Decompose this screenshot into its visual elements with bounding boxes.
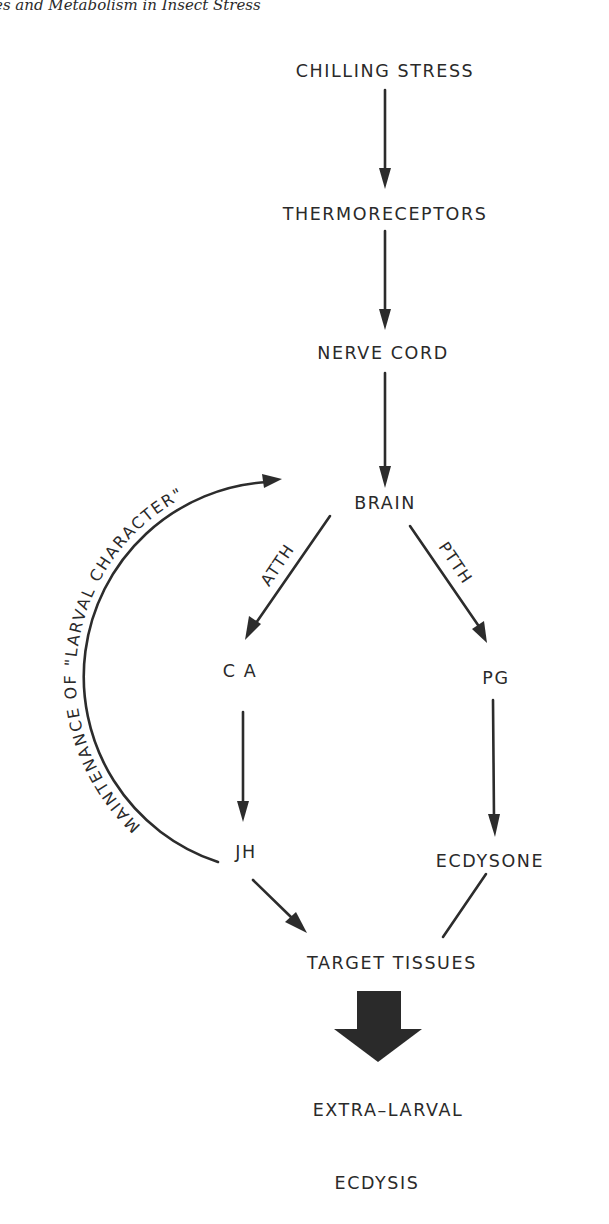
node-brain: BRAIN	[354, 493, 416, 513]
node-jh: JH	[234, 842, 257, 862]
line-ecdysone-to-target-tissues	[443, 874, 486, 937]
node-ecdysis: ECDYSIS	[334, 1173, 419, 1193]
label-maintenance-larval-character: MAINTENANCE OF "LARVAL CHARACTER"	[61, 484, 187, 837]
label-maintenance-text: MAINTENANCE OF "LARVAL CHARACTER"	[61, 484, 187, 837]
arrow-thermoreceptors-to-nerve-cord	[379, 231, 391, 330]
label-atth: ATTH	[257, 540, 299, 589]
node-pg: PG	[482, 668, 509, 688]
node-extra-larval: EXTRA–LARVAL	[313, 1100, 464, 1120]
arrow-chilling-to-thermoreceptors	[379, 90, 391, 189]
arrow-pg-to-ecdysone	[488, 700, 500, 837]
node-target-tissues: TARGET TISSUES	[306, 953, 477, 973]
node-chilling-stress: CHILLING STRESS	[296, 61, 475, 81]
node-thermoreceptors: THERMORECEPTORS	[282, 204, 488, 224]
arrow-nerve-cord-to-brain	[379, 373, 391, 488]
node-nerve-cord: NERVE CORD	[317, 343, 449, 363]
node-ecdysone: ECDYSONE	[436, 851, 544, 871]
label-ptth: PTTH	[435, 538, 477, 587]
arrow-ca-to-jh	[237, 712, 249, 822]
arrow-jh-to-target-tissues	[253, 880, 307, 933]
node-ca: C A	[223, 661, 258, 681]
hormonal-pathway-diagram: CHILLING STRESS THERMORECEPTORS NERVE CO…	[0, 0, 609, 1224]
big-down-arrow-icon	[334, 991, 422, 1062]
